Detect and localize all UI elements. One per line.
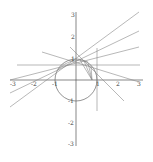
tangent-line-1: [10, 47, 139, 80]
x-tick-label: 3: [137, 80, 141, 87]
y-tick-label: -2: [68, 119, 74, 126]
x-tick-label: 2: [116, 80, 120, 87]
y-tick-label: 2: [71, 33, 75, 40]
tangent-lines-diagram: -3 -2 -1 1 2 3 3 2 1 -1 -2 -3: [0, 0, 153, 162]
x-tick-label: -1: [52, 80, 58, 87]
tangent-lines: [10, 12, 140, 111]
y-tick-label: 1: [71, 55, 75, 62]
x-tick-label: -3: [10, 80, 16, 87]
y-tick-label: -1: [68, 97, 74, 104]
x-tick-label: -2: [31, 80, 37, 87]
x-tick-label: 1: [96, 80, 100, 87]
y-tick-label: -3: [68, 140, 74, 147]
y-tick-label: 3: [71, 11, 75, 18]
